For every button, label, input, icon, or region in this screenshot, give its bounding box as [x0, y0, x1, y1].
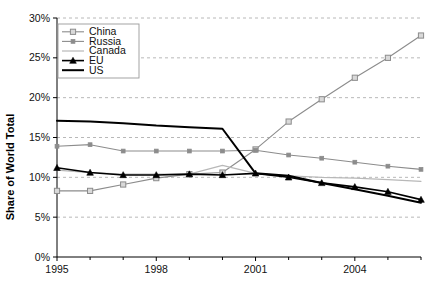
chart-legend: ChinaRussiaCanadaEUUS — [58, 24, 139, 78]
data-point-marker — [187, 149, 191, 153]
y-tick-label: 20% — [29, 91, 50, 103]
data-point-marker — [320, 156, 324, 160]
data-point-marker — [54, 188, 59, 193]
data-point-marker — [254, 148, 258, 152]
data-point-marker — [385, 55, 390, 60]
y-tick-label: 25% — [29, 51, 50, 63]
y-tick-label: 10% — [29, 171, 50, 183]
y-tick-label: 5% — [35, 211, 50, 223]
x-tick-label: 2001 — [244, 263, 268, 275]
data-point-marker — [287, 153, 291, 157]
y-tick-label: 30% — [29, 12, 50, 24]
data-point-marker — [386, 164, 390, 168]
data-point-marker — [353, 160, 357, 164]
x-tick-label: 1998 — [145, 263, 169, 275]
x-tick-label: 2004 — [343, 263, 367, 275]
data-point-marker — [154, 149, 158, 153]
data-point-marker — [70, 29, 75, 34]
y-tick-label: 15% — [29, 131, 50, 143]
x-tick-label: 1995 — [45, 263, 69, 275]
data-point-marker — [121, 182, 126, 187]
data-point-marker — [71, 40, 75, 44]
data-point-marker — [87, 188, 92, 193]
data-point-marker — [352, 75, 357, 80]
data-point-marker — [55, 144, 59, 148]
y-axis-title: Share of World Total — [4, 114, 16, 221]
y-tick-label: 0% — [35, 251, 50, 263]
data-point-marker — [418, 33, 423, 38]
data-point-marker — [419, 167, 423, 171]
data-point-marker — [319, 97, 324, 102]
data-point-marker — [121, 149, 125, 153]
chart-figure: 0%5%10%15%20%25%30% 1995199820012004 Sha… — [0, 0, 427, 288]
data-point-marker — [88, 143, 92, 147]
data-point-marker — [286, 119, 291, 124]
data-point-marker — [221, 149, 225, 153]
legend-label: US — [89, 64, 104, 76]
line-chart: 0%5%10%15%20%25%30% 1995199820012004 Sha… — [0, 0, 427, 288]
